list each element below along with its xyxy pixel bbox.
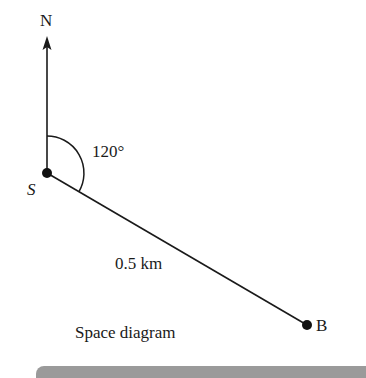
angle-label: 120° [92,142,124,162]
footer-bar [36,366,366,378]
point-s [42,168,52,178]
start-point-label: S [27,180,36,200]
bearing-line-sb [47,173,307,325]
north-label: N [40,11,52,31]
end-point-label: B [316,316,327,336]
diagram-title: Space diagram [75,323,176,343]
distance-label: 0.5 km [115,254,162,274]
point-b [302,320,312,330]
